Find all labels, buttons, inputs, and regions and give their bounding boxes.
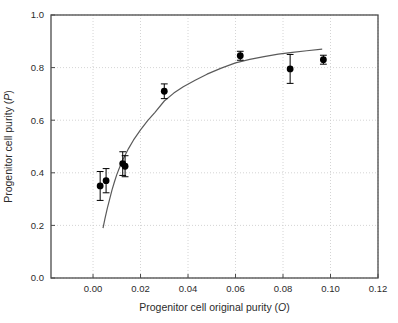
point-marker (97, 183, 104, 190)
x-tick-label: 0.00 (84, 283, 103, 294)
y-tick-label: 0.8 (31, 62, 44, 73)
point-marker (103, 177, 110, 184)
y-tick-label: 0.4 (31, 167, 44, 178)
scatter-plot: 0.000.020.040.060.080.100.120.00.20.40.6… (0, 0, 398, 323)
x-tick-label: 0.08 (274, 283, 293, 294)
y-tick-label: 1.0 (31, 9, 44, 20)
figure-container: 0.000.020.040.060.080.100.120.00.20.40.6… (0, 0, 398, 323)
y-tick-label: 0.6 (31, 115, 44, 126)
x-axis-label: Progenitor cell original purity (O) (139, 301, 290, 313)
x-tick-label: 0.12 (369, 283, 388, 294)
x-tick-label: 0.10 (321, 283, 340, 294)
point-marker (287, 66, 294, 73)
point-marker (320, 56, 327, 63)
figure-background (0, 0, 398, 323)
point-marker (161, 88, 168, 95)
y-axis-label: Progenitor cell purity (P) (2, 90, 14, 203)
x-tick-label: 0.06 (226, 283, 245, 294)
x-tick-label: 0.04 (179, 283, 198, 294)
point-marker (122, 163, 129, 170)
y-tick-label: 0.2 (31, 220, 44, 231)
x-tick-label: 0.02 (131, 283, 150, 294)
y-tick-label: 0.0 (31, 272, 44, 283)
point-marker (237, 52, 244, 59)
